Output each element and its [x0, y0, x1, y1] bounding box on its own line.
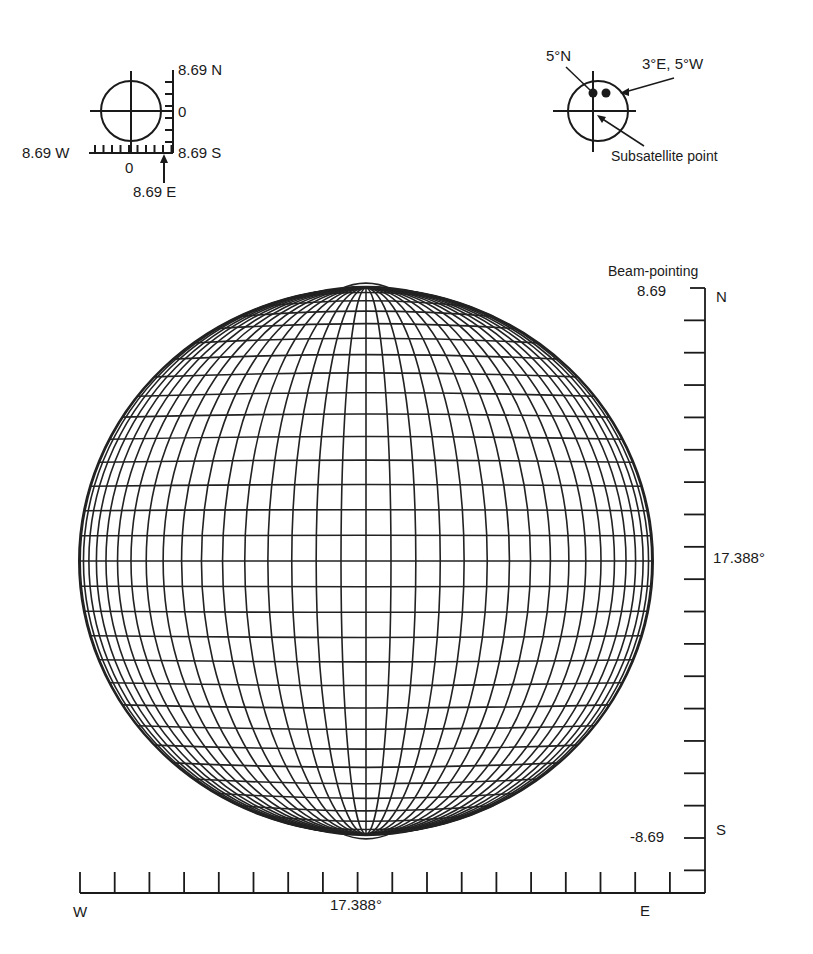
right-axis-top-value: 8.69: [637, 283, 666, 298]
inset-west-label: 8.69 W: [22, 145, 70, 160]
subsatellite-label: Subsatellite point: [611, 149, 718, 163]
right-axis-bottom-value: -8.69: [630, 829, 664, 844]
beam-ew-label: 3°E, 5°W: [642, 56, 703, 71]
beam-dot-3e: [602, 89, 611, 98]
right-axis-north: N: [716, 289, 727, 304]
axes: [80, 288, 705, 893]
beam-pointing-diagram: [0, 0, 813, 954]
inset-zero-v-label: 0: [178, 104, 186, 119]
bottom-axis-east: E: [640, 903, 650, 918]
beam-5n-label: 5°N: [546, 48, 571, 63]
inset-south-label: 8.69 S: [178, 145, 221, 160]
inset-beam-positions: [553, 67, 674, 152]
inset-zero-h-label: 0: [125, 160, 133, 175]
earth-grid-globe: [79, 283, 653, 839]
inset-east-label: 8.69 E: [133, 184, 176, 199]
bottom-axis-west: W: [73, 904, 87, 919]
right-axis-mid-value: 17.388°: [713, 550, 765, 565]
right-axis-south: S: [716, 822, 726, 837]
diagram-title: Beam-pointing: [608, 264, 698, 278]
bottom-axis-mid-value: 17.388°: [330, 897, 382, 912]
inset-north-label: 8.69 N: [178, 62, 222, 77]
